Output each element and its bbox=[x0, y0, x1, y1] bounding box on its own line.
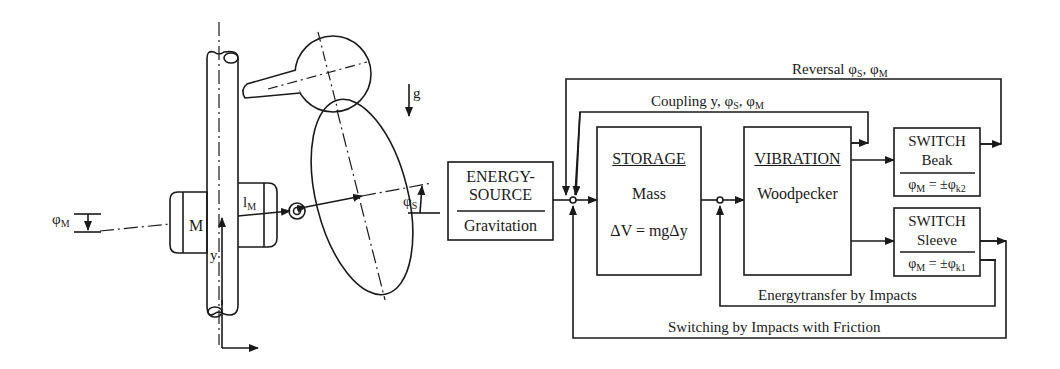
l-m-label: lM bbox=[243, 195, 256, 212]
eq-right-sub: k2 bbox=[956, 183, 966, 194]
phi-s-symbol: φ bbox=[403, 193, 412, 209]
summing-junction-1 bbox=[570, 197, 576, 203]
eq-mid: = ±φ bbox=[925, 256, 956, 271]
mass-label: M bbox=[189, 218, 203, 234]
g-label: g bbox=[413, 86, 421, 101]
phi-s-sub: S bbox=[412, 200, 418, 211]
coupling-text: Coupling y, φ bbox=[651, 93, 733, 109]
switching-label: Switching by Impacts with Friction bbox=[668, 320, 880, 335]
energy-source-title: ENERGY- SOURCE bbox=[448, 168, 553, 205]
energy-source-line1: ENERGY- bbox=[448, 168, 553, 186]
storage-line1: Mass bbox=[597, 185, 701, 203]
switch-beak-equation: φM = ±φk2 bbox=[894, 177, 980, 195]
switch-sleeve-equation: φM = ±φk1 bbox=[894, 256, 980, 274]
l-m-sub: M bbox=[247, 201, 256, 212]
switch-beak-name: Beak bbox=[894, 152, 980, 169]
coupling-sub2: M bbox=[755, 100, 764, 111]
bird-head bbox=[295, 36, 371, 112]
switch-sleeve-name: Sleeve bbox=[894, 232, 980, 249]
eq-left-sub: M bbox=[916, 262, 925, 273]
spring-icon bbox=[289, 203, 305, 219]
reversal-label: Reversal φS, φM bbox=[792, 62, 888, 79]
eq-mid: = ±φ bbox=[925, 177, 956, 192]
coupling-sep: , φ bbox=[739, 93, 755, 109]
switch-sleeve-title: SWITCH bbox=[894, 213, 980, 230]
bird-beak bbox=[243, 70, 300, 98]
eq-right-sub: k1 bbox=[956, 262, 966, 273]
phi-s-label: φS bbox=[403, 194, 417, 211]
woodpecker-mechanism bbox=[74, 22, 440, 348]
summing-junction-2 bbox=[717, 197, 723, 203]
reversal-sub2: M bbox=[879, 68, 888, 79]
phi-m-symbol: φ bbox=[52, 211, 61, 227]
energy-source-line2: SOURCE bbox=[448, 186, 553, 204]
energy-transfer-label: Energytransfer by Impacts bbox=[758, 288, 917, 303]
y-label: y bbox=[210, 248, 218, 263]
pole-top-cut bbox=[224, 53, 238, 63]
phi-m-sub: M bbox=[61, 218, 70, 229]
storage-title: STORAGE bbox=[597, 150, 701, 168]
storage-line2: ΔV = mgΔy bbox=[597, 222, 701, 240]
reversal-sep: , φ bbox=[862, 61, 878, 77]
reversal-text: Reversal φ bbox=[792, 61, 857, 77]
switch-beak-title: SWITCH bbox=[894, 133, 980, 150]
vibration-line1: Woodpecker bbox=[744, 185, 851, 203]
coupling-label: Coupling y, φS, φM bbox=[651, 94, 764, 111]
vibration-title: VIBRATION bbox=[744, 150, 851, 168]
phi-m-label: φM bbox=[52, 212, 70, 229]
eq-left-sub: M bbox=[916, 183, 925, 194]
energy-source-subtitle: Gravitation bbox=[448, 217, 553, 235]
